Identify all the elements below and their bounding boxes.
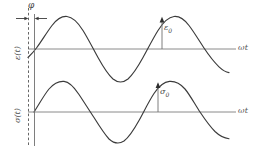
top-axis-label: ωt bbox=[238, 43, 248, 52]
stress-amplitude-label: σ0 bbox=[160, 87, 169, 98]
bottom-axis-label: ωt bbox=[238, 106, 248, 115]
stress-amplitude-subscript: 0 bbox=[165, 91, 169, 98]
strain-signal-label: ε(t) bbox=[13, 46, 22, 60]
strain-amplitude-subscript: 0 bbox=[168, 27, 172, 34]
figure-background bbox=[0, 0, 258, 154]
phase-angle-label: φ bbox=[28, 0, 34, 10]
strain-amplitude-label: ε0 bbox=[164, 23, 172, 34]
stress-signal-label: σ(t) bbox=[13, 108, 22, 123]
stress-strain-phase-diagram bbox=[0, 0, 258, 154]
